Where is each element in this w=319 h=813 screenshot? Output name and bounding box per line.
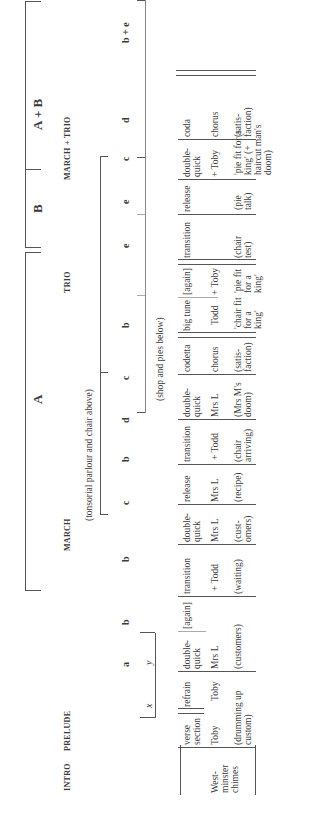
table-header: transition (182, 420, 192, 462)
table-cell-note: (satis-faction) (233, 97, 253, 137)
scene-note-below: (shop and pies below) (155, 317, 165, 401)
scene-note-above: (tonsorial parlour and chair above) (84, 389, 94, 521)
letter-b: b (120, 619, 131, 625)
subletter-y: y (143, 661, 154, 665)
table-cell-note: (customers) (233, 599, 243, 669)
table-cell-note: (waiting) (233, 546, 243, 594)
table-header: big tune (182, 297, 192, 331)
table-cell-note: (cust-omers) (233, 506, 253, 542)
section-label-a: A (30, 395, 46, 404)
table-cell-role: + Toby (210, 265, 220, 295)
table-cell-note: (recipe) (233, 466, 243, 502)
table-cell-note: (pie talk) (233, 182, 253, 210)
letter-c: c (120, 157, 131, 161)
form-label-march-trio: MARCH + TRIO (63, 116, 72, 180)
table-cell-role: + Todd (210, 420, 220, 460)
table-header: release (182, 180, 192, 212)
form-label-intro: INTRO (63, 763, 72, 791)
table-cell-role: + Todd (210, 547, 220, 591)
table-cell-role: chorus (210, 338, 220, 372)
table-cell-role: + Toby (210, 140, 220, 177)
letter-b: b (120, 556, 131, 562)
table-cell-note: (Mrs M's doom) (233, 379, 253, 417)
section-label-a-plus-b: A + B (30, 99, 46, 130)
table-header: release (182, 466, 192, 502)
table-header: codetta (182, 338, 192, 372)
subletter-x: x (143, 704, 154, 708)
table-cell-role: West-minster chimes (210, 749, 240, 793)
table-cell-note: 'chair fit for a king' (233, 293, 263, 329)
section-label-b: B (30, 204, 46, 213)
table-header: [again] (182, 597, 192, 629)
letter-c: c (120, 501, 131, 505)
table-header: refrain (182, 673, 192, 707)
letter-b: b (120, 322, 131, 328)
letter-e: e (120, 244, 131, 248)
table-cell-role: Todd (210, 297, 220, 325)
table-cell-role: Mrs L (210, 466, 220, 502)
table-cell-role: Mrs L (210, 633, 220, 669)
table-cell-role: Mrs L (210, 506, 220, 542)
table-cell-role: Toby (210, 713, 220, 745)
table-cell-note: (satis-faction) (233, 336, 253, 372)
table-header: [again] (182, 265, 192, 295)
table-cell-role: chorus (210, 101, 220, 137)
letter-a: a (120, 662, 131, 667)
table-header: double-quick (182, 377, 202, 417)
table-cell-role: Toby (210, 671, 220, 701)
letter-d: d (120, 417, 131, 423)
form-label-march: MARCH (63, 518, 72, 551)
form-label-trio: TRIO (63, 271, 72, 293)
table-header: transition (182, 546, 192, 594)
table-cell-note: (chair test) (233, 218, 253, 258)
table-cell-note: (chair arriving) (233, 422, 253, 462)
table-header: double-quick (182, 506, 202, 542)
table-header: double-quick (182, 633, 202, 669)
table-header: verse section (182, 713, 202, 745)
table-header: double-quick (182, 140, 202, 177)
form-label-prelude: PRELUDE (63, 711, 72, 751)
letter-b: b (120, 456, 131, 462)
letter-c: c (120, 376, 131, 380)
musical-structure-diagram: A B A + B INTRO PRELUDE MARCH TRIO MARCH… (0, 0, 319, 813)
letter-d: d (120, 117, 131, 123)
table-cell-role: Mrs L (210, 377, 220, 417)
table-header: coda (182, 101, 192, 137)
letter-e: e (120, 200, 131, 204)
table-cell-note: 'pie fit for a king' (233, 259, 263, 293)
table-cell-note: (drumming up custom) (233, 675, 253, 745)
table-header: transition (182, 214, 192, 258)
letter-b-plus-e: b + e (120, 22, 131, 43)
